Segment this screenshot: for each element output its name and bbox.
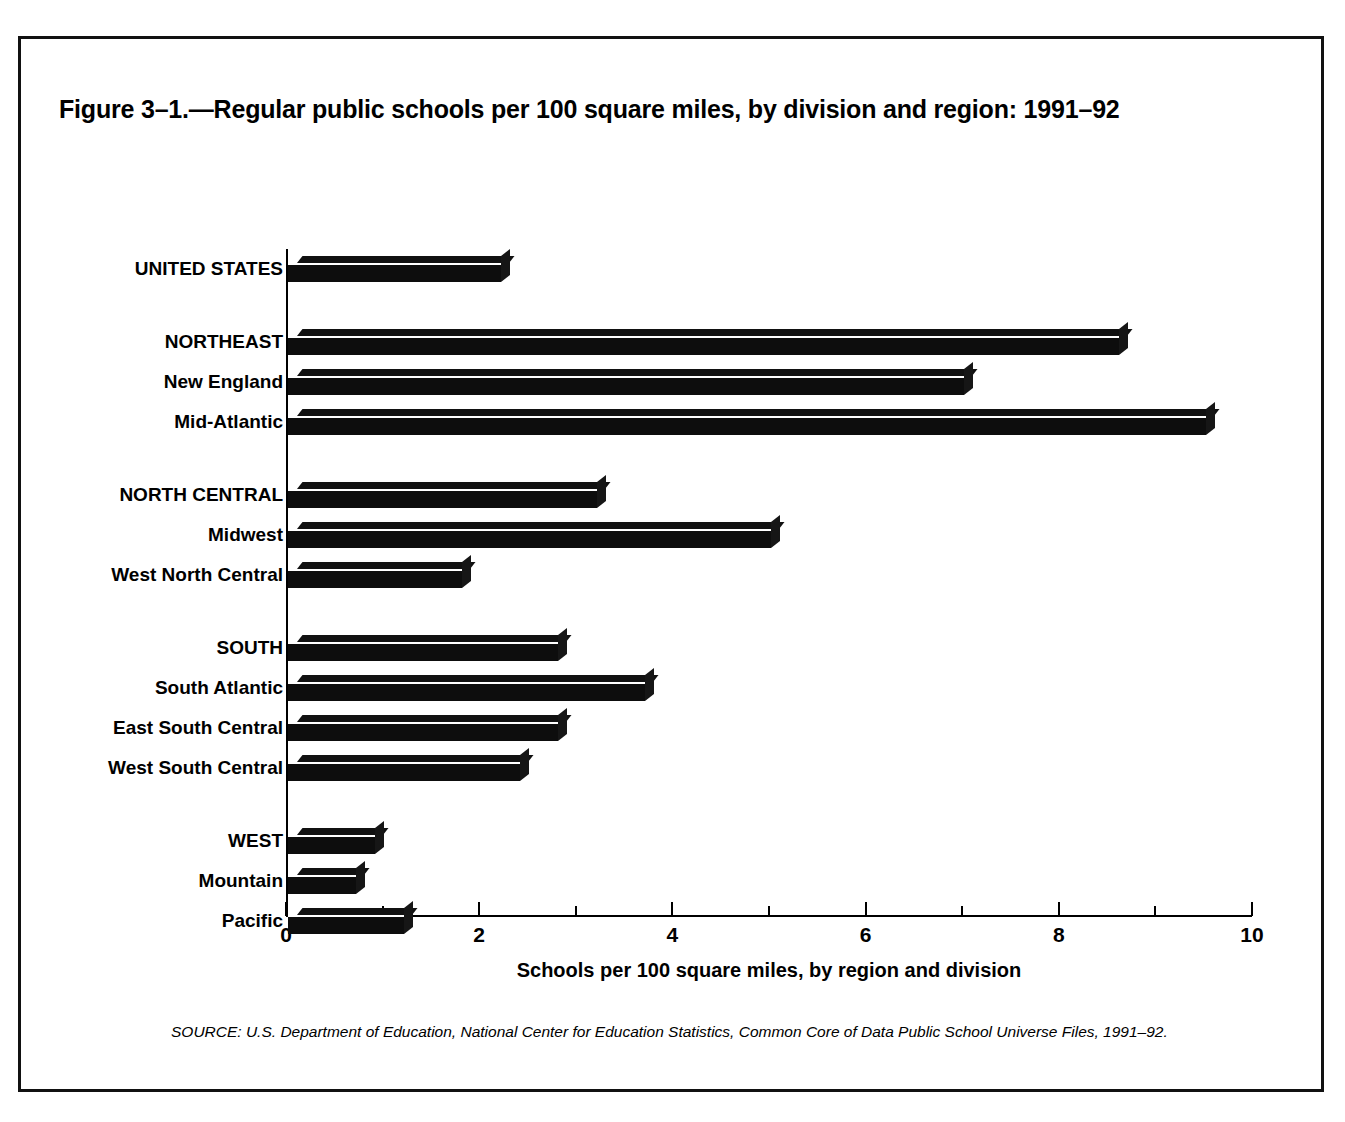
bar-side-face	[375, 821, 384, 854]
bar-row: WEST	[21, 824, 1327, 858]
bar-top-face	[297, 755, 533, 762]
x-axis-title: Schools per 100 square miles, by region …	[286, 959, 1252, 982]
bar-front-face	[288, 644, 558, 661]
bar-front-face	[288, 491, 597, 508]
category-label: Pacific	[222, 910, 283, 932]
bar-row: Pacific	[21, 904, 1327, 938]
bar-side-face	[964, 362, 973, 395]
bar-side-face	[771, 515, 780, 548]
category-label: New England	[164, 371, 283, 393]
category-label: Mid-Atlantic	[174, 411, 283, 433]
bar	[288, 715, 558, 741]
bar-front-face	[288, 378, 964, 395]
bar-side-face	[356, 861, 365, 894]
bar-front-face	[288, 531, 771, 548]
bar-front-face	[288, 338, 1119, 355]
bar-top-face	[297, 369, 978, 376]
bar-side-face	[520, 748, 529, 781]
bar-top-face	[297, 482, 611, 489]
bar-row: New England	[21, 365, 1327, 399]
bar-row: Midwest	[21, 518, 1327, 552]
plot-area: 0246810 UNITED STATESNORTHEASTNew Englan…	[21, 39, 1327, 1095]
category-label: NORTH CENTRAL	[119, 484, 283, 506]
bar-top-face	[297, 635, 572, 642]
bar-side-face	[404, 901, 413, 934]
bar-side-face	[1206, 402, 1215, 435]
bar-front-face	[288, 265, 501, 282]
bar	[288, 635, 558, 661]
bar-front-face	[288, 684, 645, 701]
bar-side-face	[645, 668, 654, 701]
category-label: Mountain	[199, 870, 283, 892]
bar-top-face	[297, 675, 659, 682]
bar-side-face	[597, 475, 606, 508]
bar-front-face	[288, 917, 404, 934]
bar-side-face	[501, 249, 510, 282]
bar-row: SOUTH	[21, 631, 1327, 665]
bar-side-face	[558, 628, 567, 661]
bar-row: West North Central	[21, 558, 1327, 592]
bar-front-face	[288, 724, 558, 741]
bar-front-face	[288, 571, 462, 588]
bar	[288, 329, 1119, 355]
bar	[288, 369, 964, 395]
bar-top-face	[297, 256, 514, 263]
bar	[288, 256, 501, 282]
bar-top-face	[297, 522, 784, 529]
category-label: West North Central	[111, 564, 283, 586]
bar	[288, 675, 645, 701]
bar	[288, 908, 404, 934]
bar	[288, 482, 597, 508]
bar-top-face	[297, 329, 1132, 336]
bar-side-face	[1119, 322, 1128, 355]
category-label: Midwest	[208, 524, 283, 546]
category-label: NORTHEAST	[165, 331, 283, 353]
bar-row: Mountain	[21, 864, 1327, 898]
bar-top-face	[297, 908, 417, 915]
category-label: WEST	[228, 830, 283, 852]
category-label: SOUTH	[217, 637, 284, 659]
bar-front-face	[288, 418, 1206, 435]
bar-front-face	[288, 837, 375, 854]
bar	[288, 755, 520, 781]
source-note: SOURCE: U.S. Department of Education, Na…	[171, 1023, 1168, 1041]
bar	[288, 562, 462, 588]
bar-side-face	[462, 555, 471, 588]
bar-row: South Atlantic	[21, 671, 1327, 705]
bar-row: West South Central	[21, 751, 1327, 785]
bar-front-face	[288, 764, 520, 781]
category-label: East South Central	[113, 717, 283, 739]
category-label: South Atlantic	[155, 677, 283, 699]
figure-frame: Figure 3–1.—Regular public schools per 1…	[18, 36, 1324, 1092]
bar-side-face	[558, 708, 567, 741]
bar-top-face	[297, 409, 1219, 416]
bar	[288, 409, 1206, 435]
bar-row: NORTH CENTRAL	[21, 478, 1327, 512]
bar-front-face	[288, 877, 356, 894]
bar	[288, 828, 375, 854]
bar-top-face	[297, 715, 572, 722]
bar-row: East South Central	[21, 711, 1327, 745]
bar-row: UNITED STATES	[21, 252, 1327, 286]
bar	[288, 868, 356, 894]
bar-row: Mid-Atlantic	[21, 405, 1327, 439]
bar-top-face	[297, 562, 475, 569]
bar	[288, 522, 771, 548]
category-label: UNITED STATES	[135, 258, 283, 280]
category-label: West South Central	[108, 757, 283, 779]
bar-row: NORTHEAST	[21, 325, 1327, 359]
